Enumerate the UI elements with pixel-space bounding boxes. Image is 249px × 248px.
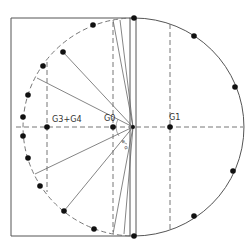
g3g4-dot	[44, 124, 50, 130]
left-dashed-arc	[23, 18, 134, 236]
g1-dot	[167, 124, 173, 130]
label-g3g4: G3+G4	[52, 114, 82, 124]
label-g1: G1	[169, 112, 180, 122]
label-g0: G0	[104, 113, 115, 123]
stage-diagram: G0 G1 G3+G4 α α	[0, 0, 249, 248]
pivot-dot	[131, 125, 135, 129]
label-angle-2: α	[123, 145, 130, 151]
g0-dot	[110, 124, 116, 130]
